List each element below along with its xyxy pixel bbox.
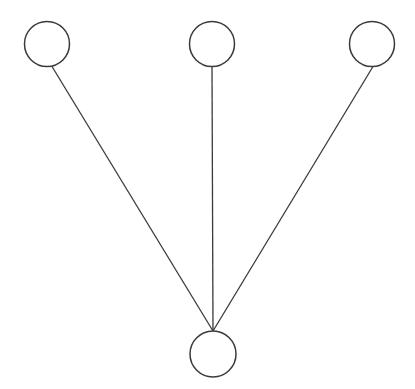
node-top-left [25, 22, 70, 67]
node-top-middle [190, 22, 235, 67]
tree-diagram [0, 0, 415, 389]
node-bottom [190, 331, 236, 377]
nodes-group [25, 22, 395, 378]
node-top-right [350, 22, 395, 67]
edges-group [52, 67, 373, 332]
edge-top-left-to-bottom [52, 67, 213, 332]
edge-top-right-to-bottom [213, 67, 373, 332]
edge-top-middle-to-bottom [212, 67, 213, 332]
